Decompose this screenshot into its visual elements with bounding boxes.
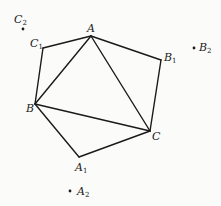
geometry-diagram: A B C A1 B1 C1 A2 B2 C2 xyxy=(0,0,221,206)
segment-B1-C xyxy=(150,60,161,131)
label-A2: A2 xyxy=(77,186,89,199)
point-A2 xyxy=(69,190,72,193)
label-C2: C2 xyxy=(14,14,27,27)
segment-B-C xyxy=(35,104,150,131)
label-A1: A1 xyxy=(75,162,87,175)
point-B2 xyxy=(193,47,196,50)
segment-A1-C xyxy=(79,131,150,157)
segment-C-A xyxy=(91,36,150,131)
label-B2: B2 xyxy=(199,42,212,55)
label-B: B xyxy=(26,103,34,114)
point-C2 xyxy=(22,28,25,31)
label-A: A xyxy=(87,23,95,34)
segment-A-B1 xyxy=(91,36,161,60)
label-B1: B1 xyxy=(164,52,177,65)
label-C1: C1 xyxy=(30,38,43,51)
segment-A-C1 xyxy=(43,36,91,48)
label-C: C xyxy=(152,131,160,142)
segments xyxy=(35,36,161,157)
segment-B-A1 xyxy=(35,104,79,157)
segment-A-B xyxy=(35,36,91,104)
